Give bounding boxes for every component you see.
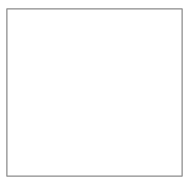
tile [188, 81, 190, 113]
tile [188, 139, 190, 171]
tiling-figure [0, 0, 190, 184]
tile [188, 23, 190, 55]
figure-frame-outline [7, 9, 182, 176]
tiling-canvas [0, 0, 190, 184]
